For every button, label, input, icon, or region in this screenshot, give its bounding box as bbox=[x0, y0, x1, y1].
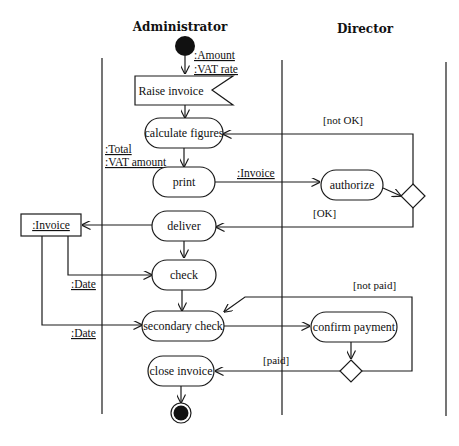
object-date-check: :Date bbox=[71, 278, 96, 290]
object-total: :Total bbox=[105, 143, 132, 155]
guard-not-ok: [not OK] bbox=[323, 114, 363, 126]
activity-raise-invoice-label: Raise invoice bbox=[139, 84, 204, 98]
activity-check-label: check bbox=[170, 268, 198, 282]
final-node bbox=[171, 403, 191, 423]
decision-authorize bbox=[401, 184, 425, 208]
object-date-secondary: :Date bbox=[71, 327, 96, 339]
object-invoice-flow: :Invoice bbox=[237, 167, 275, 179]
flow-authorize-to-decision bbox=[383, 188, 401, 196]
activity-deliver-label: deliver bbox=[167, 219, 200, 233]
object-node-invoice-label: :Invoice bbox=[32, 219, 70, 231]
activity-print-label: print bbox=[173, 175, 196, 189]
object-amount: :Amount bbox=[194, 49, 236, 61]
flow-invoice-to-check bbox=[68, 236, 152, 275]
decision-payment bbox=[340, 360, 362, 382]
initial-node bbox=[175, 36, 195, 56]
activity-calculate-figures-label: calculate figures bbox=[145, 126, 224, 140]
activity-diagram: Administrator Director :Amount :VAT rate… bbox=[0, 0, 459, 446]
activity-confirm-payment-label: confirm payment bbox=[313, 320, 396, 334]
guard-paid: [paid] bbox=[263, 354, 289, 366]
object-vat-amount: :VAT amount bbox=[105, 156, 167, 168]
swimlane-title-director: Director bbox=[337, 22, 394, 36]
guard-ok: [OK] bbox=[313, 207, 336, 219]
activity-authorize-label: authorize bbox=[330, 178, 375, 192]
guard-not-paid: [not paid] bbox=[353, 279, 396, 291]
activity-close-invoice-label: close invoice bbox=[150, 364, 213, 378]
swimlane-title-administrator: Administrator bbox=[132, 20, 228, 34]
activity-secondary-check-label: secondary check bbox=[143, 319, 223, 333]
object-vat-rate: :VAT rate bbox=[194, 63, 238, 75]
